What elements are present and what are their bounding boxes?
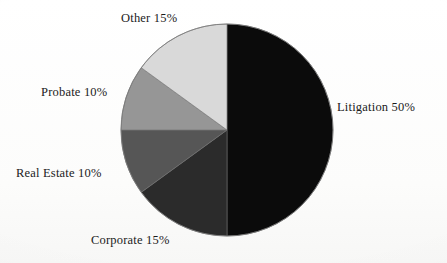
pie-slice-litigation xyxy=(227,24,333,236)
pie-chart-canvas xyxy=(0,0,447,263)
pie-chart-figure: Other 15% Probate 10% Real Estate 10% Co… xyxy=(0,0,447,263)
slice-label-probate: Probate 10% xyxy=(41,85,107,100)
slice-label-real-estate: Real Estate 10% xyxy=(16,166,102,181)
slice-label-other: Other 15% xyxy=(121,11,177,26)
pie-slice-group xyxy=(121,24,333,236)
slice-label-corporate: Corporate 15% xyxy=(91,233,170,248)
slice-label-litigation: Litigation 50% xyxy=(337,100,415,115)
